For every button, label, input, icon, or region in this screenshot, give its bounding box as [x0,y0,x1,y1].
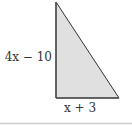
vertical-side-label: 4x − 10 [5,50,52,64]
triangle-diagram: 4x − 10 x + 3 [0,0,132,125]
base-side-label: x + 3 [64,101,96,115]
right-triangle [56,2,119,98]
